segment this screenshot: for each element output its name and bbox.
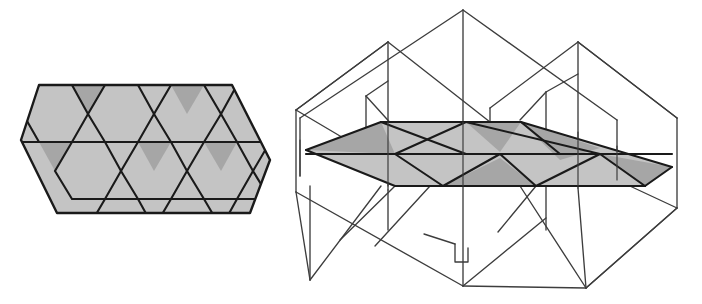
figures-canvas	[0, 0, 702, 304]
figure-page: Trihexagonal tiling patch and its 3D pla…	[0, 0, 702, 304]
